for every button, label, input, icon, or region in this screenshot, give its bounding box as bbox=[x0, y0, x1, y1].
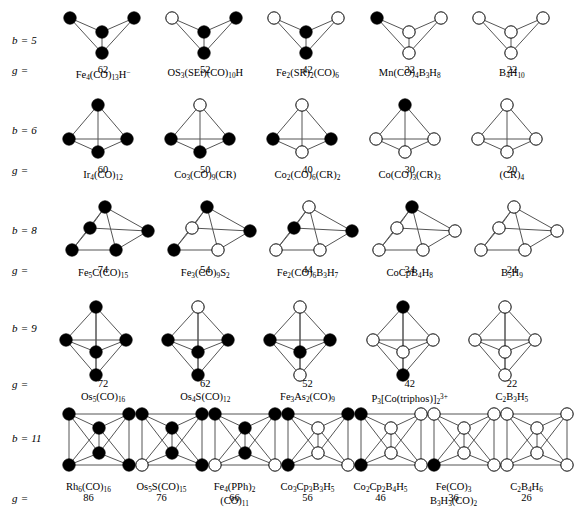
electron-count: 86 bbox=[52, 492, 125, 503]
cluster-diagram bbox=[344, 398, 417, 480]
cluster-diagram bbox=[461, 2, 563, 66]
cluster-diagram bbox=[359, 192, 461, 266]
cluster-polyhedron-trigonal-pyramid bbox=[256, 2, 356, 66]
vertex-open bbox=[458, 422, 470, 434]
electron-count: 62 bbox=[52, 64, 154, 75]
vertex-filled bbox=[230, 12, 242, 24]
vertex-filled bbox=[282, 408, 294, 420]
axis-label-b-6: b = 6 bbox=[12, 124, 37, 136]
vertex-filled bbox=[60, 334, 72, 346]
vertex-filled bbox=[428, 459, 440, 471]
electron-count: 52 bbox=[154, 64, 256, 75]
cluster-diagram bbox=[52, 292, 154, 390]
cluster-edge bbox=[171, 105, 200, 139]
vertex-filled bbox=[324, 334, 336, 346]
vertex-open bbox=[186, 222, 198, 234]
vertex-open bbox=[385, 422, 397, 434]
vertex-filled bbox=[63, 133, 75, 145]
cluster-diagram bbox=[125, 398, 198, 480]
cluster-edge bbox=[403, 340, 433, 375]
cluster-edge bbox=[98, 105, 127, 139]
vertex-open bbox=[427, 133, 439, 145]
electron-count: 40 bbox=[256, 164, 358, 175]
cluster-diagram bbox=[52, 192, 154, 266]
vertex-filled bbox=[142, 225, 154, 237]
electron-count: 52 bbox=[256, 378, 358, 389]
cluster-polyhedron-tetrahedron bbox=[359, 90, 451, 168]
vertex-filled bbox=[162, 334, 174, 346]
vertex-filled bbox=[120, 334, 132, 346]
vertex-open bbox=[493, 222, 505, 234]
electron-count: 22 bbox=[461, 64, 563, 75]
cluster-diagram bbox=[52, 398, 125, 480]
cluster-edge bbox=[507, 105, 536, 139]
cluster-polyhedron-trigonal-bipyramid bbox=[359, 292, 447, 390]
cluster-polyhedron-tetrahedron bbox=[52, 90, 144, 168]
vertex-open bbox=[396, 346, 408, 358]
vertex-filled bbox=[194, 146, 206, 158]
vertex-filled bbox=[300, 26, 312, 38]
cluster-edge bbox=[66, 307, 96, 340]
cluster-edge bbox=[200, 105, 229, 139]
vertex-filled bbox=[136, 408, 148, 420]
vertex-filled bbox=[198, 26, 210, 38]
vertex-filled bbox=[222, 334, 234, 346]
vertex-open bbox=[501, 459, 513, 471]
vertex-open bbox=[416, 244, 428, 256]
vertex-filled bbox=[64, 12, 76, 24]
cluster-diagram bbox=[461, 292, 563, 390]
cluster-diagram bbox=[154, 2, 256, 66]
cluster-edge bbox=[505, 340, 535, 375]
vertex-filled bbox=[63, 459, 75, 471]
vertex-filled bbox=[396, 301, 408, 313]
cluster-edge bbox=[397, 228, 455, 231]
cluster-cell: Rh6(CO)16 bbox=[52, 398, 125, 495]
vertex-filled bbox=[90, 301, 102, 313]
vertex-open bbox=[296, 99, 308, 111]
vertex-open bbox=[551, 225, 563, 237]
cluster-polyhedron-octahedron bbox=[490, 398, 578, 480]
cluster-diagram bbox=[154, 192, 256, 266]
cluster-polyhedron-square-pyramid bbox=[52, 192, 164, 266]
vertex-open bbox=[501, 146, 513, 158]
cluster-cell: Os5S(CO)15 bbox=[125, 398, 198, 495]
vertex-open bbox=[505, 47, 517, 59]
cluster-edge bbox=[168, 340, 198, 375]
vertex-filled bbox=[239, 447, 251, 459]
vertex-open bbox=[366, 334, 378, 346]
cluster-diagram bbox=[52, 90, 154, 168]
electron-count: 42 bbox=[359, 378, 461, 389]
vertex-filled bbox=[93, 447, 105, 459]
vertex-filled bbox=[96, 26, 108, 38]
vertex-open bbox=[531, 422, 543, 434]
cluster-polyhedron-tetrahedron bbox=[256, 90, 348, 168]
cluster-diagram bbox=[359, 90, 461, 168]
cluster-diagram bbox=[461, 90, 563, 168]
vertex-filled bbox=[168, 244, 180, 256]
vertex-filled bbox=[121, 133, 133, 145]
electron-count: 32 bbox=[359, 64, 461, 75]
electron-count: 74 bbox=[52, 264, 154, 275]
vertex-filled bbox=[264, 334, 276, 346]
cluster-polyhedron-tetrahedron bbox=[461, 90, 553, 168]
axis-label-g-5: g = bbox=[12, 64, 28, 76]
vertex-filled bbox=[99, 201, 111, 213]
vertex-filled bbox=[209, 408, 221, 420]
vertex-open bbox=[372, 244, 384, 256]
vertex-open bbox=[212, 244, 224, 256]
vertex-open bbox=[531, 447, 543, 459]
vertex-filled bbox=[92, 146, 104, 158]
cluster-diagram bbox=[461, 192, 563, 266]
vertex-filled bbox=[355, 408, 367, 420]
vertex-open bbox=[398, 146, 410, 158]
vertex-open bbox=[428, 408, 440, 420]
cluster-edge bbox=[207, 207, 250, 231]
vertex-open bbox=[469, 334, 481, 346]
electron-count: 20 bbox=[461, 164, 563, 175]
cluster-edge bbox=[294, 228, 352, 231]
vertex-open bbox=[499, 346, 511, 358]
vertex-open bbox=[332, 12, 344, 24]
cluster-diagram bbox=[52, 2, 154, 66]
axis-label-g-8: g = bbox=[12, 264, 28, 276]
vertex-filled bbox=[282, 459, 294, 471]
